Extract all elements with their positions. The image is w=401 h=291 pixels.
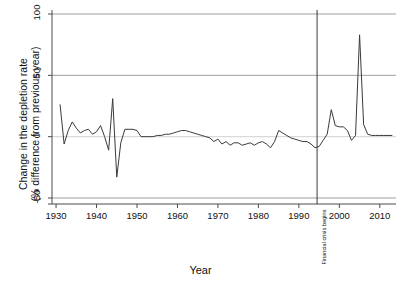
line-chart-canvas: [0, 0, 401, 291]
x-tick-2000: 2000: [319, 210, 359, 221]
data-series-group: [60, 35, 392, 177]
x-tick-1990: 1990: [279, 210, 319, 221]
x-tick-1930: 1930: [36, 210, 76, 221]
x-tick-1970: 1970: [198, 210, 238, 221]
x-axis-label: Year: [0, 264, 401, 276]
y-tick--50: -50: [26, 191, 46, 202]
gridlines-group: [52, 14, 396, 198]
chart-figure: Change in the depletion rate (% differen…: [0, 0, 401, 291]
x-tick-2010: 2010: [360, 210, 400, 221]
x-tick-1940: 1940: [77, 210, 117, 221]
x-tick-1960: 1960: [157, 210, 197, 221]
x-tick-1950: 1950: [117, 210, 157, 221]
axes-group: [48, 10, 396, 208]
y-tick-100: 100: [26, 7, 46, 18]
x-tick-1980: 1980: [238, 210, 278, 221]
y-tick-0: 0: [26, 130, 46, 141]
y-tick-50: 50: [26, 68, 46, 79]
